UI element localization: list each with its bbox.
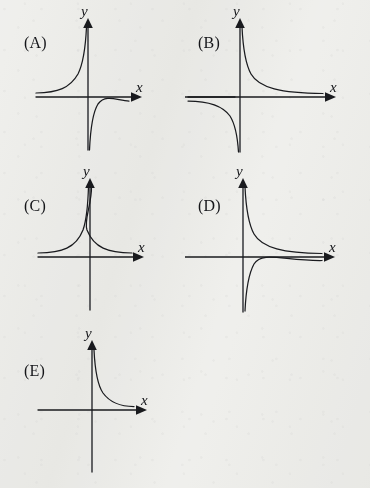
curve-e-quadrant-1 [94, 350, 134, 407]
y-axis-label-c: y [81, 163, 90, 179]
curve-d-quadrant-1 [245, 187, 322, 254]
option-panel-b[interactable]: (B) x y [185, 0, 370, 160]
graph-a: x y [0, 0, 185, 160]
option-panel-a[interactable]: (A) x y [0, 0, 185, 160]
option-panel-d[interactable]: (D) x y [185, 160, 370, 320]
y-axis-arrowhead-d [238, 178, 248, 188]
x-axis-label-d: x [328, 239, 336, 255]
y-axis-arrowhead-e [87, 340, 97, 350]
option-panel-c[interactable]: (C) x y [0, 160, 185, 320]
x-axis-label-c: x [137, 239, 145, 255]
y-axis-label-d: y [234, 163, 243, 179]
y-axis-arrowhead-a [83, 18, 93, 28]
y-axis-arrowhead-b [235, 18, 245, 28]
curve-b-quadrant-3 [188, 101, 239, 152]
curve-a-quadrant-2 [36, 27, 87, 93]
y-axis-label-e: y [83, 325, 92, 341]
graph-e: x y [0, 320, 185, 488]
graph-d: x y [185, 160, 370, 320]
graph-c: x y [0, 160, 185, 320]
curve-a-quadrant-4 [90, 98, 130, 150]
curve-b-quadrant-1 [242, 27, 323, 94]
curve-c-quadrant-1 [86, 186, 132, 253]
y-axis-arrowhead-c [85, 178, 95, 188]
option-panel-e[interactable]: (E) x y [0, 320, 185, 488]
curve-d-quadrant-4 [245, 257, 322, 311]
x-axis-label-b: x [329, 79, 337, 95]
y-axis-label-b: y [231, 3, 240, 19]
graph-b: x y [185, 0, 370, 160]
options-grid: (A) x y (B) [0, 0, 370, 488]
x-axis-label-a: x [135, 79, 143, 95]
curve-c-quadrant-2 [38, 186, 89, 253]
y-axis-label-a: y [79, 3, 88, 19]
x-axis-label-e: x [140, 392, 148, 408]
